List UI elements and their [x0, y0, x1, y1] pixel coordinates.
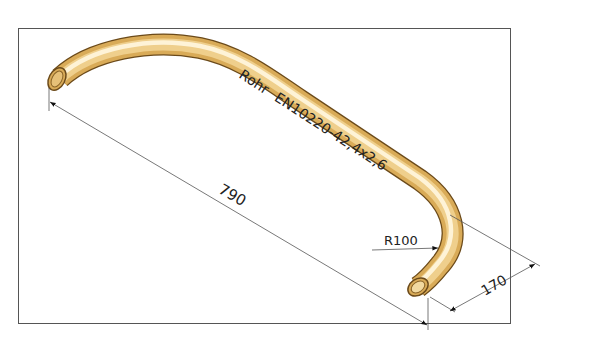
pipe-drawing: 790 170 R100 RohrEN10220-42,4x2,6 [0, 0, 589, 359]
dimension-length-label: 790 [215, 180, 249, 210]
part-label-text: RohrEN10220-42,4x2,6 [236, 66, 390, 174]
dimension-radius: R100 [372, 233, 438, 250]
dimension-length: 790 [49, 88, 428, 330]
dimension-end-leg-label: 170 [478, 271, 509, 298]
part-label: RohrEN10220-42,4x2,6 [236, 66, 390, 174]
dimension-radius-label: R100 [384, 233, 418, 248]
